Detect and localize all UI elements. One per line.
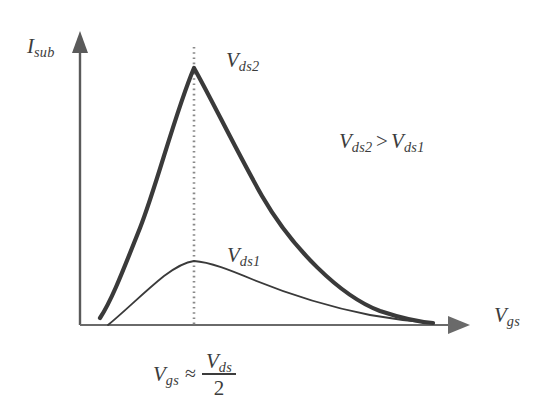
curve-label-vds1: Vds1 xyxy=(227,245,261,266)
inequality-operator: > xyxy=(373,129,392,153)
figure-container: Isub Vgs Vds2 Vds1 Vds2>Vds1 Vgs ≈ Vds 2 xyxy=(0,0,557,412)
peak-equation-numerator-var: V xyxy=(206,349,219,373)
y-axis-label: Isub xyxy=(27,36,55,57)
inequality-right-var: V xyxy=(391,129,404,153)
peak-equation: Vgs ≈ Vds 2 xyxy=(153,350,236,399)
peak-equation-lhs: Vgs xyxy=(153,364,179,385)
plot-canvas xyxy=(0,0,557,412)
inequality-annotation: Vds2>Vds1 xyxy=(339,131,425,152)
peak-equation-lhs-sub: gs xyxy=(166,372,179,388)
curve-label-vds2-var: V xyxy=(226,48,239,72)
curve-label-vds1-var: V xyxy=(227,243,240,267)
y-axis xyxy=(72,31,88,325)
peak-equation-fraction: Vds 2 xyxy=(202,350,236,399)
peak-equation-lhs-var: V xyxy=(153,362,166,386)
inequality-left-sub: ds2 xyxy=(352,139,373,155)
curve-label-vds1-sub: ds1 xyxy=(240,253,261,269)
inequality-right-sub: ds1 xyxy=(404,139,425,155)
curve-label-vds2-sub: ds2 xyxy=(239,58,260,74)
x-axis-label-sub: gs xyxy=(507,313,520,329)
curve-label-vds2: Vds2 xyxy=(226,50,260,71)
peak-equation-operator: ≈ xyxy=(179,364,202,384)
curve-vds1 xyxy=(108,261,433,325)
y-axis-label-sub: sub xyxy=(34,44,55,60)
y-axis-label-var: I xyxy=(27,34,34,58)
peak-equation-numerator: Vds xyxy=(202,350,236,373)
x-axis-label: Vgs xyxy=(494,305,520,326)
inequality-left-var: V xyxy=(339,129,352,153)
x-axis-label-var: V xyxy=(494,303,507,327)
peak-equation-numerator-sub: ds xyxy=(219,359,232,375)
peak-equation-denominator: 2 xyxy=(210,375,229,399)
